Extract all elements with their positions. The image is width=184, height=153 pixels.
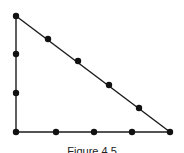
dot-hypotenuse <box>106 82 112 88</box>
dot-bottom <box>53 129 59 135</box>
dot-hypotenuse <box>136 105 142 111</box>
triangle-diagram <box>0 0 184 153</box>
dot-hypotenuse <box>45 36 51 42</box>
figure-caption: Figure 4.5 <box>0 146 184 153</box>
dot-left <box>13 51 19 57</box>
dot-bottom <box>167 129 173 135</box>
triangle-edges <box>16 16 170 132</box>
hypotenuse-edge <box>16 16 170 132</box>
dot-hypotenuse <box>75 58 81 64</box>
dot-bottom <box>129 129 135 135</box>
dot-left <box>13 129 19 135</box>
dot-bottom <box>91 129 97 135</box>
dot-left <box>13 13 19 19</box>
dot-left <box>13 90 19 96</box>
